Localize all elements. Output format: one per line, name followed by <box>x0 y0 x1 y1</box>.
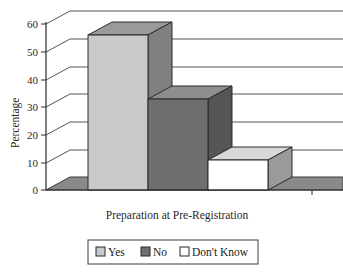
legend-swatch-dont-know <box>180 247 189 256</box>
bar-dont-know <box>208 147 292 190</box>
x-axis-title: Preparation at Pre-Registration <box>106 209 249 222</box>
y-tick-label: 0 <box>33 184 39 196</box>
y-tick-label: 40 <box>27 74 39 86</box>
legend-label-yes: Yes <box>108 246 125 258</box>
legend: Yes No Don't Know <box>88 240 258 264</box>
bar-chart: 60 50 40 30 20 10 0 Percentage Preparati… <box>0 0 343 276</box>
chart-canvas: 60 50 40 30 20 10 0 Percentage Preparati… <box>0 0 343 276</box>
y-tick-label: 30 <box>27 101 39 113</box>
legend-swatch-no <box>141 247 150 256</box>
y-tick-label: 60 <box>27 18 39 30</box>
y-tick-label: 10 <box>27 157 39 169</box>
y-tick-label: 50 <box>27 46 39 58</box>
y-tick-label: 20 <box>27 129 39 141</box>
legend-swatch-yes <box>96 247 105 256</box>
legend-label-dont-know: Don't Know <box>192 246 249 258</box>
y-axis-title: Percentage <box>9 98 22 148</box>
legend-label-no: No <box>153 246 167 258</box>
